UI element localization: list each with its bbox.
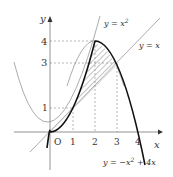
y-tick-1: 1 [42,103,48,113]
label-y-eq-x2: y = x2 [103,17,129,28]
origin-label: O [54,137,61,147]
y-axis-label: y [39,13,46,24]
y-arrow-icon [48,16,53,22]
y-tick-4: 4 [41,36,47,47]
shaded-region [50,44,116,132]
x-tick-2: 2 [92,137,98,147]
x-axis-label: x [154,139,160,150]
x-tick-3: 3 [114,137,120,147]
x-tick-1: 1 [70,137,76,147]
label-y-eq-neg-x2-4x: y = −x2 + 4x [102,156,156,167]
x-tick-4: 4 [135,137,141,147]
area-diagram: y x O 1 2 3 4 1 3 4 y = x2 y = x y = −x2… [0,0,173,177]
y-tick-3: 3 [41,57,47,68]
x-arrow-icon [158,130,163,135]
label-y-eq-x: y = x [138,41,160,50]
